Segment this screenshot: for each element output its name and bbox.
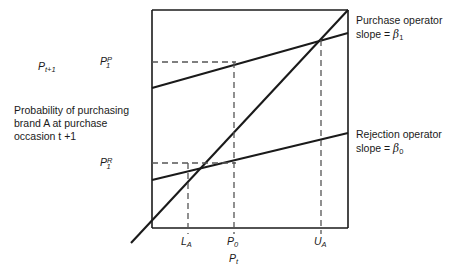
annotation-purchase-operator: Purchase operator slope = β1 [356,14,442,44]
annotation-rejection-operator-line2: slope = β0 [356,142,442,159]
y-axis-description-text: Probability of purchasing brand A at pur… [14,104,129,142]
y-axis-description: Probability of purchasing brand A at pur… [14,104,149,144]
x-tick-label-p0: P0 [227,235,238,249]
figure-container: Pt+1 Probability of purchasing brand A a… [0,0,461,277]
annotation-purchase-operator-line2: slope = β1 [356,28,442,45]
y-tick-label-p1p: PP1 [100,55,110,70]
rejection-operator-line [152,133,348,180]
annotation-rejection-operator: Rejection operator slope = β0 [356,128,442,158]
annotation-purchase-operator-line1: Purchase operator [356,14,442,28]
x-tick-label-ua: UA [314,235,327,249]
y-axis-symbol: Pt+1 [38,60,56,77]
diagonal-45-line [131,10,348,243]
purchase-operator-line [152,33,348,88]
x-axis-symbol: Pt [229,252,238,266]
annotation-rejection-operator-line1: Rejection operator [356,128,442,142]
x-tick-label-la: LA [181,235,192,249]
y-tick-label-p1r: PR1 [100,156,111,171]
